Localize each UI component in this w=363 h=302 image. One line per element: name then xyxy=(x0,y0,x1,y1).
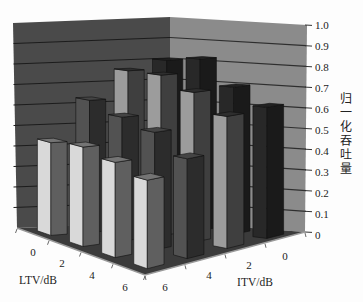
ltv-tick-mark xyxy=(80,253,82,257)
y-tick-label: 1.0 xyxy=(315,19,329,31)
bar-side-face xyxy=(51,142,67,236)
itv-tick-mark xyxy=(265,244,266,248)
bar-side-face xyxy=(227,114,244,249)
bar-side-face xyxy=(267,104,284,238)
bar-front-face xyxy=(253,106,267,239)
ltv-tick-mark xyxy=(16,229,18,233)
y-tick-label: 0.3 xyxy=(315,166,329,178)
y-tick-label: 0.5 xyxy=(315,124,329,136)
itv-axis-title: ITV/dB xyxy=(237,276,273,288)
ltv-tick-label: 2 xyxy=(59,257,65,269)
y-tick-label: 0.8 xyxy=(315,61,329,73)
bar xyxy=(253,103,284,238)
ltv-tick-label: 0 xyxy=(30,246,36,258)
y-tick-label: 0 xyxy=(315,229,321,241)
bar xyxy=(213,112,244,249)
y-tick-label: 0.2 xyxy=(315,187,329,199)
bar xyxy=(102,156,132,257)
y-tick-label: 0.4 xyxy=(315,145,329,157)
bar-front-face xyxy=(213,114,227,248)
bar-side-face xyxy=(187,156,204,259)
itv-tick-label: 6 xyxy=(162,281,168,293)
itv-tick-label: 4 xyxy=(206,269,212,281)
itv-tick-mark xyxy=(145,276,146,280)
ltv-tick-mark xyxy=(112,264,114,268)
bar-front-face xyxy=(102,159,116,258)
ltv-tick-label: 6 xyxy=(122,281,128,293)
ltv-tick-label: 4 xyxy=(89,269,95,281)
itv-tick-label: 2 xyxy=(246,259,252,271)
itv-tick-mark xyxy=(225,255,226,259)
ltv-axis-title: LTV/dB xyxy=(19,274,57,286)
itv-tick-mark xyxy=(305,233,306,237)
chart-3d-bar: 0 0.1 0.2 0.3 0.4 0.5 0.6 0.7 0.8 0.9 1.… xyxy=(0,0,363,302)
y-tick-label: 0.6 xyxy=(315,103,329,115)
bar-front-face xyxy=(70,144,84,247)
plot-area: 0 0.1 0.2 0.3 0.4 0.5 0.6 0.7 0.8 0.9 1.… xyxy=(0,0,363,302)
y-tick-label: 0.7 xyxy=(315,82,329,94)
y-axis: 0 0.1 0.2 0.3 0.4 0.5 0.6 0.7 0.8 0.9 1.… xyxy=(315,19,329,241)
bar-side-face xyxy=(147,177,164,269)
ltv-tick-mark xyxy=(48,241,50,245)
bar xyxy=(37,138,67,235)
bar-front-face xyxy=(134,176,148,268)
bar xyxy=(70,142,100,247)
bar-front-face xyxy=(174,156,188,259)
itv-tick-mark xyxy=(185,265,186,269)
y-tick-label: 0.1 xyxy=(315,208,329,220)
bar xyxy=(134,173,164,268)
y-axis-title: 归一化吞吐量 xyxy=(336,92,352,176)
bar-side-face xyxy=(115,160,132,258)
y-tick-label: 0.9 xyxy=(315,40,329,52)
bar-side-face xyxy=(83,145,99,246)
bar xyxy=(174,153,204,259)
bar-front-face xyxy=(37,139,51,235)
itv-tick-label: 0 xyxy=(282,250,288,262)
